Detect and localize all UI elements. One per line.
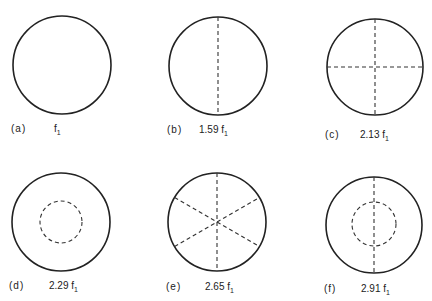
- membrane-circle-d: [12, 173, 110, 271]
- panel-d-drawing: [12, 173, 110, 271]
- freq-subscript: 1: [385, 135, 389, 142]
- frequency-label-b: 1.59 f1: [199, 124, 228, 137]
- freq-subscript: 1: [230, 287, 234, 294]
- nodal-circle: [40, 201, 82, 243]
- panel-a-drawing: [13, 16, 111, 114]
- frequency-label-c: 2.13 f1: [360, 129, 389, 142]
- freq-value: 2.91: [361, 283, 380, 294]
- panel-label-d: (d): [9, 280, 24, 291]
- panel-label-c: (c): [325, 129, 340, 140]
- panel-f-drawing: [326, 177, 422, 273]
- freq-value: 1.59: [199, 124, 218, 135]
- panel-label-a: (a): [11, 123, 26, 134]
- freq-value: 2.65: [205, 281, 224, 292]
- panel-label-e: (e): [166, 281, 181, 292]
- mode-diagram: [0, 0, 432, 301]
- freq-subscript: 1: [57, 129, 61, 136]
- panel-c-drawing: [327, 19, 423, 115]
- frequency-label-e: 2.65 f1: [205, 281, 234, 294]
- panel-b-drawing: [169, 17, 267, 115]
- panel-label-b: (b): [167, 124, 182, 135]
- freq-value: 2.29: [49, 280, 68, 291]
- freq-value: 2.13: [360, 129, 379, 140]
- panel-label-f: (f): [324, 283, 336, 294]
- membrane-circle-a: [13, 16, 111, 114]
- frequency-label-a: f1: [54, 123, 61, 136]
- freq-subscript: 1: [386, 289, 390, 296]
- panel-e-drawing: [168, 173, 266, 271]
- freq-subscript: 1: [74, 286, 78, 293]
- freq-subscript: 1: [224, 130, 228, 137]
- frequency-label-f: 2.91 f1: [361, 283, 390, 296]
- frequency-label-d: 2.29 f1: [49, 280, 78, 293]
